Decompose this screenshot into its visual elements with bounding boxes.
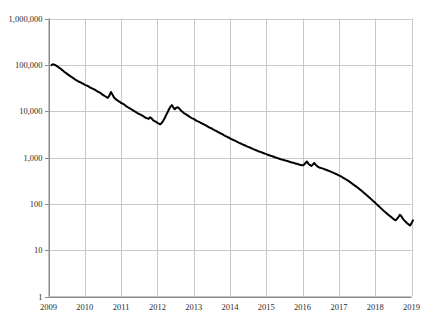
x-tick-label: 2010 — [76, 302, 93, 312]
log-line-chart: 1,000,000100,00010,0001,000100101 200920… — [0, 0, 426, 326]
x-tick-label: 2017 — [330, 302, 347, 312]
y-tick-label: 1,000,000 — [9, 14, 43, 24]
x-tick-label: 2018 — [367, 302, 384, 312]
x-tick-label: 2011 — [113, 302, 130, 312]
y-tick-label: 1,000 — [23, 153, 42, 163]
x-tick-label: 2012 — [149, 302, 166, 312]
y-tick-label: 10 — [34, 245, 43, 255]
x-tick-label: 2014 — [222, 302, 240, 312]
x-tick-label: 2019 — [403, 302, 420, 312]
x-tick-label: 2016 — [294, 302, 311, 312]
x-tick-label: 2009 — [40, 302, 57, 312]
y-tick-label: 10,000 — [19, 106, 42, 116]
x-tick-label: 2015 — [258, 302, 275, 312]
y-tick-label: 100 — [30, 199, 43, 209]
chart-container: 1,000,000100,00010,0001,000100101 200920… — [0, 0, 426, 326]
y-tick-label: 100,000 — [15, 60, 43, 70]
y-tick-label: 1 — [38, 292, 42, 302]
x-tick-label: 2013 — [185, 302, 202, 312]
chart-background — [0, 0, 426, 326]
